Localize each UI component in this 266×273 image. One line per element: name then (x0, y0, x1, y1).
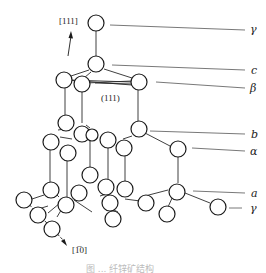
atom (88, 56, 104, 72)
atom (159, 206, 175, 222)
atom (131, 74, 147, 90)
atoms (16, 15, 226, 237)
atom (56, 72, 72, 88)
layer-label-alpha: α (250, 145, 258, 158)
atom (170, 141, 186, 157)
atom (58, 197, 74, 213)
direction-111-label: [111] (59, 16, 78, 26)
layer-label-gamma-bottom: γ (250, 202, 257, 215)
atom (43, 134, 59, 150)
atom (43, 182, 59, 198)
figure-caption: 图 ... 纤锌矿结构 (86, 263, 154, 273)
atom (44, 221, 60, 237)
atom (210, 199, 226, 215)
atom (86, 129, 98, 141)
layer-label-beta: β (249, 82, 256, 95)
layer-label-c: c (251, 64, 257, 77)
atom (98, 179, 114, 195)
atom (138, 195, 154, 211)
atom (105, 211, 121, 227)
direction-1-10-label: [1̅0] (72, 245, 87, 255)
atom (169, 184, 185, 200)
atom (16, 192, 32, 208)
atom (117, 181, 133, 197)
layer-leader-lines (110, 25, 245, 208)
direction-111-arrow (68, 31, 73, 56)
atom (58, 115, 74, 131)
atom (102, 195, 118, 211)
atom (131, 121, 147, 137)
atom (88, 15, 104, 31)
atom (30, 207, 46, 223)
crystal-structure-diagram: [111] (0, 0, 266, 273)
layer-label-b: b (251, 128, 258, 141)
atom (100, 132, 116, 148)
atom (60, 145, 76, 161)
layer-label-a: a (251, 187, 258, 200)
layer-label-gamma-top: γ (250, 23, 257, 36)
plane-111-label: (111) (101, 93, 120, 103)
atom (116, 140, 132, 156)
atom (71, 185, 87, 201)
atom (82, 167, 98, 183)
atom (74, 76, 90, 92)
